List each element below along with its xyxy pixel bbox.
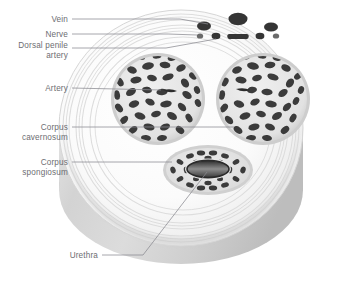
nerve-small-right bbox=[273, 33, 279, 38]
label-nerve: Nerve bbox=[45, 30, 68, 39]
label-dorsal-penile-artery: Dorsal penile artery bbox=[18, 41, 68, 60]
dorsal-vein bbox=[229, 13, 248, 25]
label-artery-line-1: Artery bbox=[45, 84, 68, 93]
diagram-canvas: Vein Nerve Dorsal penile artery Artery C… bbox=[0, 0, 362, 295]
label-nerve-line-1: Nerve bbox=[45, 30, 68, 39]
vein-right bbox=[264, 22, 278, 31]
label-urethra: Urethra bbox=[70, 251, 99, 260]
label-corpus-spongiosum-line-1: Corpus bbox=[41, 158, 68, 167]
label-artery: Artery bbox=[45, 84, 68, 93]
label-corpus-spongiosum-line-2: spongiosum bbox=[22, 168, 68, 177]
corpus-cavernosum-right bbox=[216, 53, 310, 145]
label-corpus-cavernosum: Corpus cavernosum bbox=[22, 123, 68, 142]
label-corpus-cavernosum-line-2: cavernosum bbox=[22, 133, 68, 142]
dorsal-artery-right bbox=[256, 33, 265, 40]
label-vein-line-1: Vein bbox=[51, 15, 68, 24]
label-dorsal-penile-artery-line-1: Dorsal penile bbox=[18, 41, 68, 50]
label-vein: Vein bbox=[51, 15, 68, 24]
label-dorsal-penile-artery-line-2: artery bbox=[46, 51, 69, 60]
corpus-cavernosum-left bbox=[111, 53, 205, 145]
nerve-small-left bbox=[197, 33, 203, 38]
corpus-spongiosum bbox=[163, 145, 253, 195]
penis-cross-section-diagram: Vein Nerve Dorsal penile artery Artery C… bbox=[0, 0, 362, 295]
label-urethra-line-1: Urethra bbox=[70, 251, 99, 260]
label-corpus-spongiosum: Corpus spongiosum bbox=[22, 158, 68, 177]
label-corpus-cavernosum-line-1: Corpus bbox=[41, 123, 68, 132]
dorsal-artery-left bbox=[212, 33, 221, 40]
deep-dorsal-vein bbox=[227, 34, 248, 39]
